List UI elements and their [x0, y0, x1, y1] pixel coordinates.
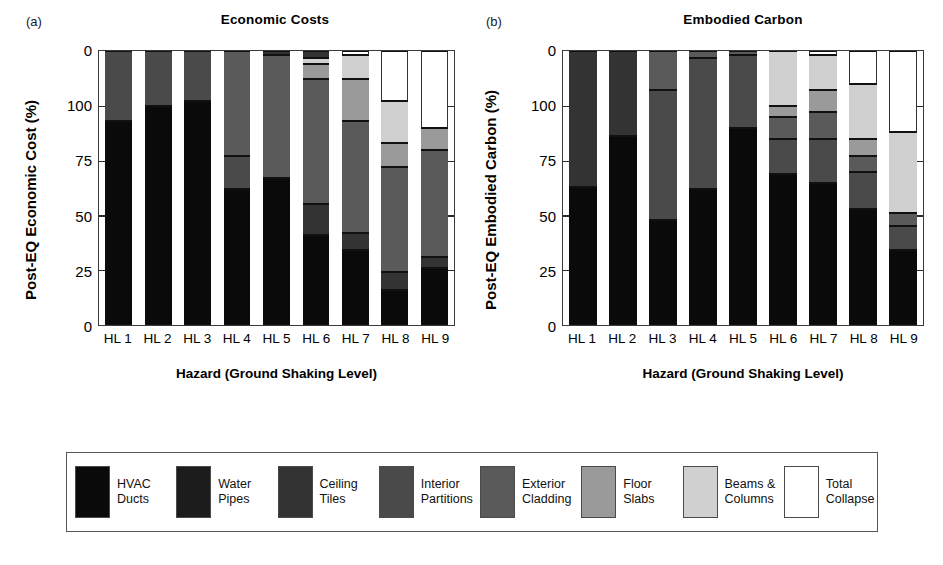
bar-hl-9[interactable]: [889, 51, 916, 325]
x-tick-label: HL 9: [884, 331, 924, 346]
bar-hl-4[interactable]: [689, 51, 716, 325]
bar-hl-6[interactable]: [303, 51, 330, 325]
legend-item-hvac-ducts[interactable]: HVAC Ducts: [67, 453, 168, 531]
y-tick-right: [448, 215, 454, 216]
y-tick: [99, 270, 105, 271]
y-tick-label: 0: [84, 318, 92, 335]
legend-item-total-collapse[interactable]: Total Collapse: [776, 453, 877, 531]
bar-segment: [769, 106, 796, 117]
legend: HVAC DuctsWater PipesCeiling TilesInteri…: [66, 452, 878, 532]
panel-b-x-axis-title: Hazard (Ground Shaking Level): [562, 366, 924, 381]
y-tick-right: [917, 161, 923, 162]
panel-a-title: Economic Costs: [95, 12, 455, 27]
y-tick: [99, 106, 105, 107]
legend-label: Water Pipes: [218, 477, 251, 507]
bar-segment: [381, 290, 408, 325]
x-tick-label: HL 8: [844, 331, 884, 346]
bar-segment: [342, 121, 369, 233]
bar-hl-7[interactable]: [342, 51, 369, 325]
panel-b-x-tick-labels: HL 1HL 2HL 3HL 4HL 5HL 6HL 7HL 8HL 9: [562, 331, 924, 346]
bar-segment: [421, 128, 448, 150]
x-tick-label: HL 9: [415, 331, 455, 346]
bar-hl-7[interactable]: [809, 51, 836, 325]
legend-label: Interior Partitions: [421, 477, 473, 507]
bar-segment: [649, 220, 676, 325]
bar-segment: [421, 51, 448, 128]
y-tick-label: 0: [548, 42, 556, 59]
panel-a-bars: [99, 51, 454, 325]
panel-economic-costs: (a) Economic Costs Post-EQ Economic Cost…: [0, 0, 470, 420]
y-tick: [99, 215, 105, 216]
y-tick-label: 50: [539, 207, 556, 224]
x-tick-label: HL 5: [723, 331, 763, 346]
legend-item-water-pipes[interactable]: Water Pipes: [168, 453, 269, 531]
x-tick-label: HL 4: [683, 331, 723, 346]
bar-segment: [381, 143, 408, 167]
panel-a-x-tick-labels: HL 1HL 2HL 3HL 4HL 5HL 6HL 7HL 8HL 9: [98, 331, 455, 346]
y-tick-label: 25: [539, 262, 556, 279]
bar-hl-1[interactable]: [569, 51, 596, 325]
bar-segment: [889, 250, 916, 325]
bar-hl-9[interactable]: [421, 51, 448, 325]
bar-hl-3[interactable]: [649, 51, 676, 325]
y-tick-label: 25: [75, 262, 92, 279]
legend-item-exterior-cladding[interactable]: Exterior Cladding: [472, 453, 573, 531]
y-tick-label: 75: [75, 152, 92, 169]
bar-hl-5[interactable]: [263, 51, 290, 325]
bar-segment: [303, 235, 330, 325]
legend-item-floor-slabs[interactable]: Floor Slabs: [573, 453, 674, 531]
bar-hl-8[interactable]: [381, 51, 408, 325]
legend-label: Ceiling Tiles: [320, 477, 358, 507]
bar-hl-3[interactable]: [184, 51, 211, 325]
bar-hl-4[interactable]: [224, 51, 251, 325]
bar-segment: [889, 132, 916, 213]
legend-swatch: [480, 466, 515, 518]
bar-segment: [809, 55, 836, 90]
panel-b-letter: (b): [486, 14, 502, 29]
bar-segment: [342, 55, 369, 79]
bar-segment: [809, 112, 836, 138]
panel-b-plot-area: [562, 50, 924, 326]
bar-segment: [342, 250, 369, 325]
bar-segment: [184, 51, 211, 101]
bar-segment: [421, 150, 448, 257]
bar-hl-2[interactable]: [145, 51, 172, 325]
bar-hl-5[interactable]: [729, 51, 756, 325]
bar-segment: [609, 51, 636, 136]
legend-swatch: [176, 466, 211, 518]
bar-segment: [849, 51, 876, 84]
x-tick-label: HL 2: [602, 331, 642, 346]
x-tick-label: HL 4: [217, 331, 257, 346]
bar-segment: [569, 187, 596, 325]
x-tick-label: HL 3: [642, 331, 682, 346]
x-tick-label: HL 1: [98, 331, 138, 346]
bar-segment: [849, 209, 876, 325]
bar-hl-1[interactable]: [105, 51, 132, 325]
bar-segment: [145, 51, 172, 106]
bar-hl-2[interactable]: [609, 51, 636, 325]
y-tick-right: [448, 106, 454, 107]
bar-segment: [809, 183, 836, 325]
bar-segment: [809, 90, 836, 112]
y-tick-label: 100: [67, 97, 92, 114]
bar-segment: [609, 136, 636, 325]
bar-segment: [889, 51, 916, 132]
bar-segment: [849, 156, 876, 171]
bar-segment: [145, 106, 172, 325]
bar-segment: [381, 101, 408, 143]
y-tick: [563, 215, 569, 216]
panel-b-title: Embodied Carbon: [558, 12, 928, 27]
bar-segment: [421, 257, 448, 268]
legend-swatch: [278, 466, 313, 518]
y-tick-label: 50: [75, 207, 92, 224]
legend-item-ceiling-tiles[interactable]: Ceiling Tiles: [270, 453, 371, 531]
bar-hl-8[interactable]: [849, 51, 876, 325]
legend-swatch: [683, 466, 718, 518]
bar-hl-6[interactable]: [769, 51, 796, 325]
x-tick-label: HL 6: [763, 331, 803, 346]
legend-item-interior-partitions[interactable]: Interior Partitions: [371, 453, 472, 531]
bar-segment: [889, 213, 916, 226]
legend-item-beams-columns[interactable]: Beams & Columns: [675, 453, 776, 531]
figure-root: (a) Economic Costs Post-EQ Economic Cost…: [0, 0, 943, 565]
bar-segment: [263, 55, 290, 178]
